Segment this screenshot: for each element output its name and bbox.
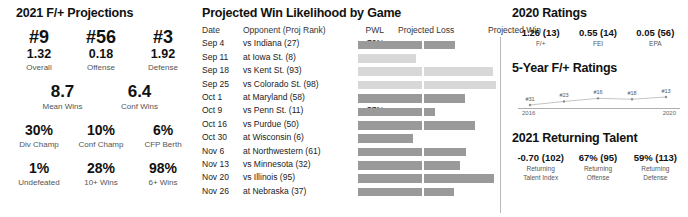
sparkline-point (563, 100, 565, 102)
pwl-bar-group (358, 92, 504, 105)
table-row: Sep 4vs Indiana (27)70% (202, 38, 502, 51)
projected-loss-bar (358, 41, 422, 50)
projected-loss-bar (358, 188, 422, 197)
table-body: Sep 4vs Indiana (27)70%Sep 11at Iowa St.… (202, 38, 502, 199)
stat-conf-wins: 6.4 Conf Wins (101, 82, 178, 112)
projected-loss-bar (358, 161, 422, 170)
cell-date: Oct 9 (202, 105, 222, 115)
sparkline-point-label: #31 (525, 96, 534, 102)
talent-offense: 67% (95) Returning Offense (569, 151, 626, 182)
cell-date: Nov 6 (202, 146, 224, 156)
column-header-pwl: PWL (358, 25, 384, 35)
ten-plus-wins-label: 10+ Wins (70, 177, 132, 188)
projected-loss-bar (358, 174, 422, 183)
sparkline-point (665, 96, 667, 98)
cell-date: Nov 26 (202, 186, 229, 196)
projections-panel: 2021 F/+ Projections #9 1.32 Overall #56… (8, 6, 194, 188)
undefeated-label: Undefeated (8, 177, 70, 188)
projected-loss-bar (358, 67, 422, 76)
talent-offense-label-1: Returning (569, 164, 626, 173)
cell-date: Nov 20 (202, 172, 229, 182)
rating-fplus-value: 1.26 (13) (512, 26, 569, 39)
projected-loss-bar (358, 54, 416, 63)
projected-loss-bar (358, 94, 422, 103)
pwl-bar-group (358, 65, 504, 78)
talent-offense-label-2: Offense (569, 173, 626, 182)
six-plus-wins-value: 98% (132, 160, 194, 177)
stat-six-plus-wins: 98% 6+ Wins (132, 160, 194, 188)
sparkline-point (631, 98, 633, 100)
pwl-bar-group (358, 146, 504, 159)
champ-odds-row: 30% Div Champ 10% Conf Champ 6% CFP Bert… (8, 122, 194, 150)
conf-wins-label: Conf Wins (101, 101, 178, 112)
cell-date: Oct 16 (202, 119, 227, 129)
rating-fei-label: FEI (569, 39, 626, 48)
rating-fplus: 1.26 (13) F/+ (512, 26, 569, 48)
mean-wins-label: Mean Wins (24, 101, 101, 112)
table-row: Oct 9vs Penn St. (11)57% (202, 105, 502, 118)
talent-index-value: -0.70 (102) (512, 151, 569, 164)
conf-champ-label: Conf Champ (70, 139, 132, 150)
rating-fei: 0.55 (14) FEI (569, 26, 626, 48)
sparkline-point-label: #13 (661, 88, 670, 94)
div-champ-value: 30% (8, 122, 70, 139)
table-row: Sep 11at Iowa St. (8)42% (202, 52, 502, 65)
offense-value: 0.18 (70, 47, 132, 62)
stat-div-champ: 30% Div Champ (8, 122, 70, 150)
five-year-title: 5-Year F/+ Ratings (512, 61, 684, 75)
cell-opponent: at Nebraska (37) (243, 186, 306, 196)
rating-fei-value: 0.55 (14) (569, 26, 626, 39)
stat-cfp-berth: 6% CFP Berth (132, 122, 194, 150)
overall-rank: #9 (8, 27, 70, 47)
defense-value: 1.92 (132, 47, 194, 62)
win-likelihood-panel: Projected Win Likelihood by Game Date Op… (202, 6, 502, 199)
pwl-bar-group (358, 172, 504, 185)
cfp-berth-value: 6% (132, 122, 194, 139)
talent-defense-label-2: Defense (627, 173, 684, 182)
cell-opponent: vs Penn St. (11) (243, 105, 303, 115)
sparkline-start-year: 2016 (522, 110, 536, 116)
projected-win-bar (424, 41, 455, 50)
pwl-bar-group (358, 105, 504, 118)
pwl-bar-group (358, 132, 504, 145)
sparkline-end-year: 2020 (663, 110, 677, 116)
five-year-sparkline: #31#23#16#18#1320162020 (516, 81, 682, 117)
six-plus-wins-label: 6+ Wins (132, 177, 194, 188)
div-champ-label: Div Champ (8, 139, 70, 150)
ratings-panel: 2020 Ratings 1.26 (13) F/+ 0.55 (14) FEI… (512, 6, 684, 182)
table-row: Nov 13vs Minnesota (32)73% (202, 159, 502, 172)
stat-overall: #9 1.32 Overall (8, 27, 70, 73)
sparkline-point-label: #16 (593, 89, 602, 95)
cell-date: Sep 11 (202, 52, 228, 62)
defense-label: Defense (132, 62, 194, 73)
table-row: Oct 30at Wisconsin (6)37% (202, 132, 502, 145)
cfp-berth-label: CFP Berth (132, 139, 194, 150)
cell-opponent: vs Colorado St. (98) (243, 79, 319, 89)
overall-value: 1.32 (8, 47, 70, 62)
rating-epa-label: EPA (627, 39, 684, 48)
sparkline-svg: #31#23#16#18#1320162020 (516, 81, 682, 117)
table-row: Nov 26at Nebraska (37)69% (202, 186, 502, 199)
table-row: Oct 16vs Purdue (50)83% (202, 119, 502, 132)
stat-offense: #56 0.18 Offense (70, 27, 132, 73)
cell-opponent: at Iowa St. (8) (243, 52, 296, 62)
stat-undefeated: 1% Undefeated (8, 160, 70, 188)
win-likelihood-title: Projected Win Likelihood by Game (202, 6, 502, 20)
projection-card: 2021 F/+ Projections #9 1.32 Overall #56… (0, 0, 688, 217)
projected-win-bar (424, 67, 493, 76)
cell-opponent: vs Purdue (50) (243, 119, 299, 129)
talent-index-label-2: Talent Index (512, 173, 569, 182)
stat-conf-champ: 10% Conf Champ (70, 122, 132, 150)
sparkline-point (529, 104, 531, 106)
rating-fplus-label: F/+ (512, 39, 569, 48)
win-total-odds-row: 1% Undefeated 28% 10+ Wins 98% 6+ Wins (8, 160, 194, 188)
sparkline-point-label: #23 (559, 92, 568, 98)
talent-index: -0.70 (102) Returning Talent Index (512, 151, 569, 182)
projected-win-bar (424, 121, 475, 130)
chart-axis-line (500, 37, 501, 213)
conf-champ-value: 10% (70, 122, 132, 139)
column-header-opponent: Opponent (Proj Rank) (243, 25, 326, 35)
sparkline-point-label: #18 (627, 90, 636, 96)
cell-date: Oct 1 (202, 92, 222, 102)
rating-epa-value: 0.05 (56) (627, 26, 684, 39)
